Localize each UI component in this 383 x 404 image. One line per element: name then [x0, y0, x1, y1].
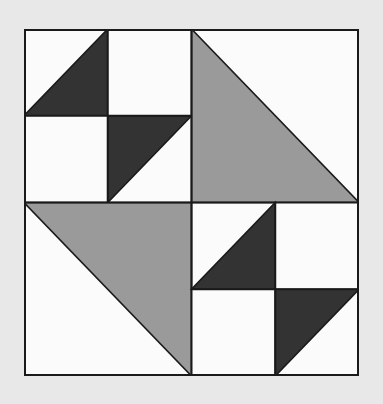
- patch-square-bottom-right: [192, 289, 276, 376]
- patch-square-bottom-right: [275, 203, 359, 290]
- patch-square-top-left: [24, 116, 108, 203]
- patch-square-top-left: [108, 29, 192, 116]
- quilt-block-svg: [24, 29, 359, 376]
- quilt-block: [24, 29, 359, 376]
- quilt-shapes: [24, 29, 359, 376]
- canvas-root: [0, 0, 383, 404]
